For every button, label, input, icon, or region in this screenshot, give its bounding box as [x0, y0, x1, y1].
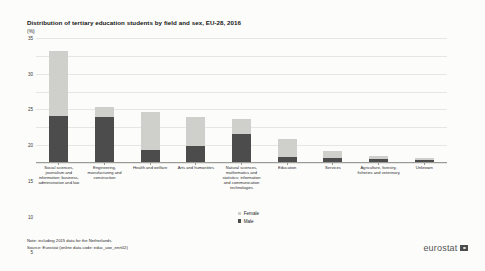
bar-stack[interactable] — [186, 117, 205, 162]
bar-column[interactable] — [264, 38, 310, 162]
bar-segment-male[interactable] — [49, 116, 68, 162]
eurostat-logo-mark-icon — [460, 245, 468, 251]
chart-title: Distribution of tertiary education stude… — [27, 19, 241, 26]
bar-stack[interactable] — [278, 139, 297, 162]
bar-column[interactable] — [310, 38, 356, 162]
bar-column[interactable] — [401, 38, 447, 162]
legend-label-male: Male — [244, 219, 254, 224]
x-axis-category-labels: Social sciences, journalism and informat… — [36, 166, 447, 191]
x-axis-category-label: Education — [264, 166, 310, 191]
bar-segment-female[interactable] — [232, 119, 251, 134]
chart-legend: Female Male — [238, 211, 259, 226]
bar-column[interactable] — [173, 38, 219, 162]
y-axis-tick-label: 5 — [30, 250, 33, 255]
bar-stack[interactable] — [323, 151, 342, 162]
y-axis-tick-label: 35 — [28, 36, 33, 41]
bar-stack[interactable] — [49, 51, 68, 162]
y-axis-tick-label: 25 — [28, 107, 33, 112]
bar-segment-male[interactable] — [232, 134, 251, 162]
y-axis-tick-label: 15 — [28, 178, 33, 183]
plot-area: 05101520253035 — [36, 38, 447, 163]
x-axis-category-label: Natural sciences, mathematics and statis… — [219, 166, 265, 191]
legend-swatch-female-icon — [238, 212, 241, 215]
x-axis-category-label: Health and welfare — [127, 166, 173, 191]
bar-column[interactable] — [127, 38, 173, 162]
chart-note: Note: including 2015 data for the Nether… — [27, 238, 112, 243]
bar-segment-female[interactable] — [186, 117, 205, 146]
legend-item-male[interactable]: Male — [238, 219, 259, 224]
bar-column[interactable] — [82, 38, 128, 162]
x-axis-category-label: Services — [310, 166, 356, 191]
legend-label-female: Female — [244, 211, 259, 216]
bar-segment-female[interactable] — [141, 112, 160, 150]
y-axis-tick-label: 10 — [28, 214, 33, 219]
chart-source[interactable]: Source: Eurostat (online data code: educ… — [27, 245, 128, 250]
legend-swatch-male-icon — [238, 219, 241, 222]
eurostat-logo: eurostat — [423, 243, 468, 253]
bar-column[interactable] — [36, 38, 82, 162]
x-axis-category-label: Unknown — [401, 166, 447, 191]
bar-stack[interactable] — [141, 112, 160, 162]
bar-stack[interactable] — [95, 107, 114, 162]
bar-segment-female[interactable] — [278, 139, 297, 157]
y-axis-tick-label: 20 — [28, 143, 33, 148]
chart-page: Distribution of tertiary education stude… — [0, 0, 485, 271]
bar-column[interactable] — [356, 38, 402, 162]
x-axis-category-label: Social sciences, journalism and informat… — [36, 166, 82, 191]
x-axis-category-label: Engineering, manufacturing and construct… — [82, 166, 128, 191]
bar-segment-male[interactable] — [186, 146, 205, 162]
bar-segment-female[interactable] — [49, 51, 68, 115]
y-axis-unit-label: (%) — [27, 28, 35, 34]
x-axis-category-label: Arts and humanities — [173, 166, 219, 191]
legend-item-female[interactable]: Female — [238, 211, 259, 216]
bar-group — [36, 38, 447, 162]
y-axis-tick-label: 30 — [28, 71, 33, 76]
eurostat-logo-text: eurostat — [423, 243, 457, 253]
x-axis-category-label: Agriculture, forestry, fisheries and vet… — [356, 166, 402, 191]
bar-stack[interactable] — [232, 119, 251, 162]
bar-segment-male[interactable] — [95, 117, 114, 162]
bar-column[interactable] — [219, 38, 265, 162]
bar-segment-male[interactable] — [141, 150, 160, 162]
bar-segment-female[interactable] — [323, 151, 342, 158]
bar-segment-female[interactable] — [95, 107, 114, 118]
